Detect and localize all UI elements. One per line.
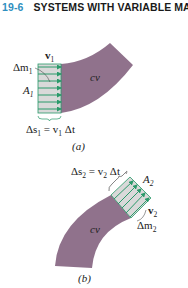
caption-b: (b) bbox=[78, 272, 91, 285]
area-label-b: A2 bbox=[142, 173, 154, 188]
mass-label-b: Δm2 bbox=[137, 219, 157, 234]
velocity-label-a: v1 bbox=[45, 49, 55, 64]
area-label-a: A1 bbox=[22, 84, 33, 99]
caption-a: (a) bbox=[72, 140, 85, 153]
cv-label-a: cv bbox=[90, 71, 100, 83]
displacement-eq-a: Δs1 = v1 Δt bbox=[26, 123, 75, 138]
figure-diagram: cv v1 Δm1 A1 Δs1 = v1 Δt (a) cv Δs2 = v2… bbox=[0, 0, 188, 288]
cv-label-b: cv bbox=[90, 223, 100, 235]
figure-b: cv Δs2 = v2 Δt A2 v2 Δm2 (b) bbox=[55, 165, 158, 285]
mass-label-a: Δm1 bbox=[13, 61, 33, 76]
displacement-eq-b: Δs2 = v2 Δt bbox=[71, 165, 120, 180]
brace-a bbox=[38, 116, 61, 121]
figure-a: cv v1 Δm1 A1 Δs1 = v1 Δt (a) bbox=[13, 43, 133, 153]
velocity-label-b: v2 bbox=[148, 204, 158, 219]
